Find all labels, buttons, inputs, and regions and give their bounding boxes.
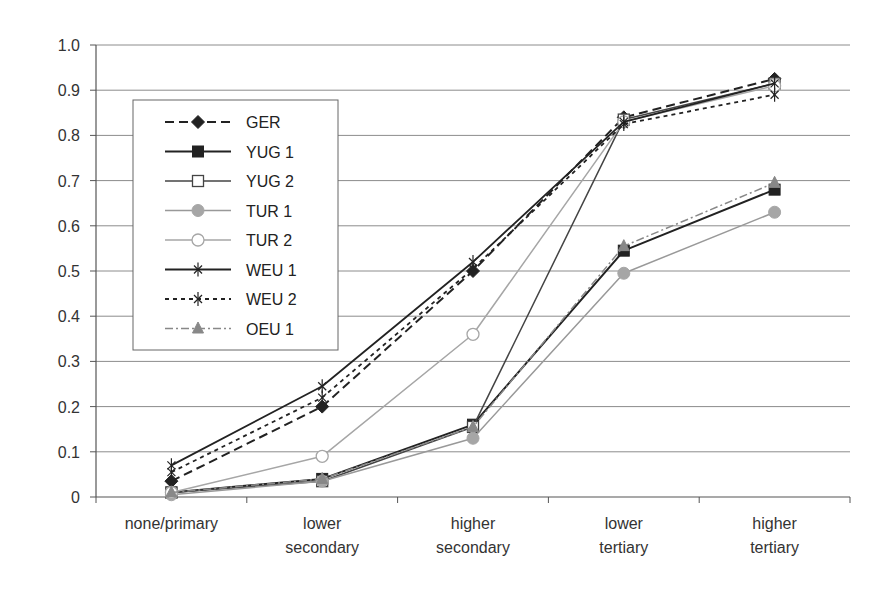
legend-label: WEU 1	[246, 262, 297, 279]
x-tick-label: lower	[605, 515, 644, 532]
x-tick-label: secondary	[285, 539, 359, 556]
open-circle-marker	[192, 234, 204, 246]
x-tick-label: tertiary	[599, 539, 648, 556]
x-tick-label: secondary	[436, 539, 510, 556]
legend-label: YUG 2	[246, 173, 294, 190]
circle-marker	[769, 206, 781, 218]
square-marker	[193, 146, 204, 157]
x-axis: none/primarylowersecondaryhighersecondar…	[96, 497, 850, 556]
legend-label: OEU 1	[246, 321, 294, 338]
y-tick-label: 0.2	[58, 399, 80, 416]
legend-label: YUG 1	[246, 144, 294, 161]
legend-label: TUR 1	[246, 203, 292, 220]
open-circle-marker	[467, 328, 479, 340]
legend: GERYUG 1YUG 2TUR 1TUR 2WEU 1WEU 2OEU 1	[133, 100, 338, 350]
triangle-marker	[769, 176, 780, 187]
legend-label: WEU 2	[246, 291, 297, 308]
y-tick-label: 0.7	[58, 173, 80, 190]
circle-marker	[192, 205, 204, 217]
circle-marker	[618, 267, 630, 279]
x-tick-label: tertiary	[750, 539, 799, 556]
open-circle-marker	[316, 450, 328, 462]
x-tick-label: none/primary	[125, 515, 218, 532]
y-tick-label: 0.6	[58, 218, 80, 235]
x-tick-label: higher	[752, 515, 797, 532]
y-tick-label: 0.8	[58, 127, 80, 144]
y-tick-label: 0.4	[58, 308, 80, 325]
y-tick-label: 0.3	[58, 353, 80, 370]
y-axis: 00.10.20.30.40.50.60.70.80.91.0	[58, 37, 96, 506]
line-chart: 00.10.20.30.40.50.60.70.80.91.0 none/pri…	[0, 0, 891, 595]
x-tick-label: higher	[451, 515, 496, 532]
legend-label: TUR 2	[246, 232, 292, 249]
y-tick-label: 0.5	[58, 263, 80, 280]
y-tick-label: 0.1	[58, 444, 80, 461]
y-tick-label: 0	[71, 489, 80, 506]
open-square-marker	[193, 176, 204, 187]
y-tick-label: 1.0	[58, 37, 80, 54]
legend-box	[133, 100, 338, 350]
x-tick-label: lower	[303, 515, 342, 532]
legend-label: GER	[246, 114, 281, 131]
circle-marker	[467, 432, 479, 444]
y-tick-label: 0.9	[58, 82, 80, 99]
